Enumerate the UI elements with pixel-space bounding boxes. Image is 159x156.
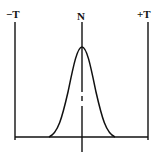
bell-curve-diagram: −T N +T: [0, 0, 159, 156]
label-n: N: [77, 10, 85, 22]
label-plus-t: +T: [137, 8, 151, 20]
label-minus-t: −T: [6, 8, 20, 20]
